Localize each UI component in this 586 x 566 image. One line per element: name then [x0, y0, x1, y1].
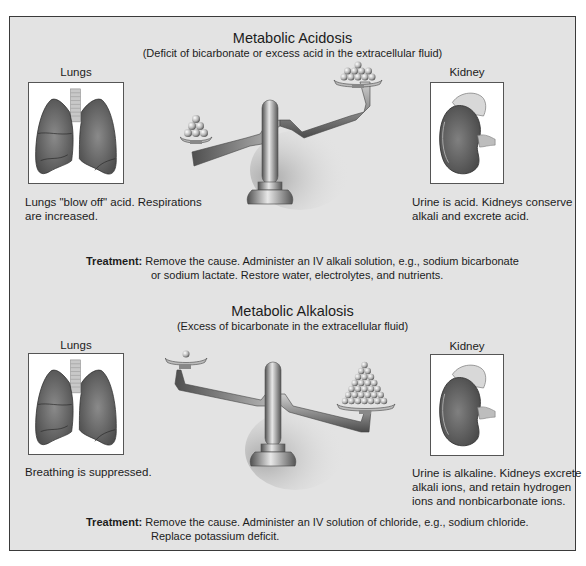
alkalosis-treatment-label: Treatment:	[86, 516, 142, 528]
alkalosis-title: Metabolic Alkalosis	[9, 303, 576, 319]
acidosis-balance-scale-icon	[180, 60, 420, 220]
acidosis-left-weights	[184, 115, 208, 137]
alkalosis-right-weights	[342, 362, 387, 404]
acidosis-kidney-description: Urine is acid. Kidneys conserve alkali a…	[412, 195, 582, 223]
acidosis-header: Metabolic Acidosis (Deficit of bicarbona…	[9, 30, 576, 59]
alkalosis-subtitle: (Excess of bicarbonate in the extracellu…	[9, 320, 576, 332]
alkalosis-left-weight	[183, 351, 190, 358]
alkalosis-treatment-line1: Remove the cause. Administer an IV solut…	[145, 516, 528, 528]
alkalosis-kidney-label: Kidney	[430, 340, 504, 352]
acidosis-title: Metabolic Acidosis	[9, 30, 576, 46]
alkalosis-header: Metabolic Alkalosis (Excess of bicarbona…	[9, 303, 576, 332]
acidosis-kidney-image	[430, 82, 504, 184]
acidosis-treatment-label: Treatment:	[86, 255, 142, 267]
kidney-icon	[431, 355, 502, 454]
lungs-icon	[29, 83, 122, 182]
acidosis-kidney-label: Kidney	[430, 66, 504, 78]
acidosis-lungs-image	[28, 82, 124, 184]
acidosis-treatment-line1: Remove the cause. Administer an IV alkal…	[145, 255, 519, 267]
alkalosis-balance-scale-icon	[165, 340, 405, 500]
acidosis-treatment: Treatment: Remove the cause. Administer …	[86, 254, 566, 282]
alkalosis-treatment: Treatment: Remove the cause. Administer …	[86, 515, 566, 543]
alkalosis-kidney-image	[430, 354, 504, 456]
alkalosis-lungs-image	[28, 353, 124, 455]
alkalosis-kidney-description: Urine is alkaline. Kidneys excrete alkal…	[412, 466, 586, 508]
alkalosis-lungs-label: Lungs	[28, 339, 124, 351]
acidosis-treatment-line2: or sodium lactate. Restore water, electr…	[86, 268, 566, 282]
lungs-icon	[29, 354, 122, 453]
acidosis-subtitle: (Deficit of bicarbonate or excess acid i…	[9, 47, 576, 59]
kidney-icon	[431, 83, 502, 182]
acidosis-lungs-label: Lungs	[28, 66, 124, 78]
acidosis-right-weights	[341, 62, 376, 81]
alkalosis-treatment-line2: Replace potassium deficit.	[86, 529, 566, 543]
